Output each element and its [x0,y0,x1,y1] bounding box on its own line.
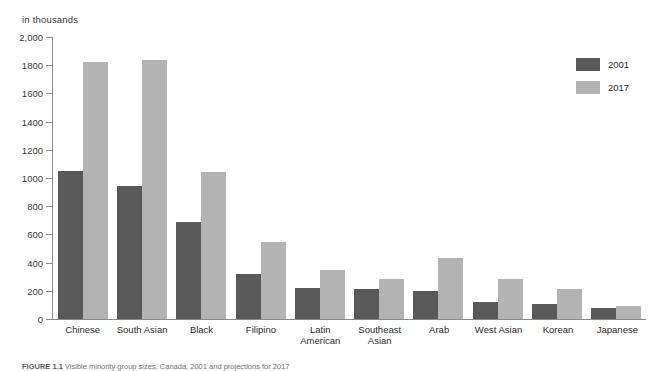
bar-2017[interactable] [498,279,523,319]
bar-group [172,37,231,319]
figure-caption: FIGURE 1.1 Visible minority group sizes,… [22,362,642,371]
bar-group [231,37,290,319]
figure-caption-text: Visible minority group sizes, Canada, 20… [65,362,290,371]
bar-group [53,37,112,319]
x-axis-labels: ChineseSouth AsianBlackFilipinoLatin Ame… [53,324,647,346]
y-tick-mark [46,65,52,66]
bar-2017[interactable] [201,172,226,319]
bar-2001[interactable] [295,288,320,319]
figure-container: in thousands 020040060080010001200140016… [0,0,661,371]
x-axis-label: Latin American [291,324,350,346]
bar-2001[interactable] [532,304,557,319]
axis-unit-label: in thousands [22,14,78,25]
x-axis-label: Korean [528,324,587,346]
legend-swatch-2017 [576,81,600,94]
y-tick-label: 1200 [22,144,43,155]
legend-item-2001: 2001 [576,58,629,71]
y-tick-label: 0 [38,314,43,325]
y-tick-label: 1800 [22,60,43,71]
bar-2017[interactable] [142,60,167,319]
y-tick-label: 1000 [22,173,43,184]
y-tick-mark [46,263,52,264]
x-axis-label: Southeast Asian [350,324,409,346]
y-tick-mark [46,178,52,179]
bar-group [349,37,408,319]
legend-swatch-2001 [576,58,600,71]
y-tick-label: 200 [27,285,43,296]
x-axis-label: Black [172,324,231,346]
y-tick-mark [46,206,52,207]
bar-2017[interactable] [557,289,582,319]
y-tick-mark [46,150,52,151]
y-tick-mark [46,319,52,320]
y-tick-label: 400 [27,257,43,268]
legend-label-2017: 2017 [608,82,629,93]
bar-2017[interactable] [438,258,463,319]
y-tick-label: 1600 [22,88,43,99]
bar-2001[interactable] [58,171,83,319]
x-axis-label: Chinese [53,324,112,346]
bar-2001[interactable] [354,289,379,319]
chart-legend: 2001 2017 [576,58,629,94]
bar-2017[interactable] [261,242,286,319]
y-tick-label: 2,000 [19,32,43,43]
bar-2017[interactable] [616,306,641,319]
bar-2017[interactable] [320,270,345,319]
x-axis-label: South Asian [112,324,171,346]
bar-group [409,37,468,319]
y-tick-mark [46,37,52,38]
y-tick-label: 1400 [22,116,43,127]
y-tick-mark [46,93,52,94]
x-axis-label: Japanese [588,324,647,346]
x-axis-label: Arab [409,324,468,346]
x-axis-label: Filipino [231,324,290,346]
y-tick-mark [46,291,52,292]
bar-2017[interactable] [83,62,108,319]
figure-number: FIGURE 1.1 [22,362,63,371]
bar-2001[interactable] [591,308,616,319]
x-axis-label: West Asian [469,324,528,346]
bar-groups [53,37,646,319]
bar-2017[interactable] [379,279,404,319]
bar-group [112,37,171,319]
bar-2001[interactable] [236,274,261,319]
plot-area: 0200400600800100012001400160018002,000 [52,37,646,320]
y-tick-label: 600 [27,229,43,240]
bar-2001[interactable] [473,302,498,319]
bar-2001[interactable] [176,222,201,319]
bar-2001[interactable] [117,186,142,319]
x-axis-line [52,319,646,320]
y-tick-label: 800 [27,201,43,212]
bar-group [290,37,349,319]
y-tick-mark [46,234,52,235]
legend-item-2017: 2017 [576,81,629,94]
bar-group [468,37,527,319]
y-tick-mark [46,122,52,123]
bar-2001[interactable] [413,291,438,319]
legend-label-2001: 2001 [608,59,629,70]
